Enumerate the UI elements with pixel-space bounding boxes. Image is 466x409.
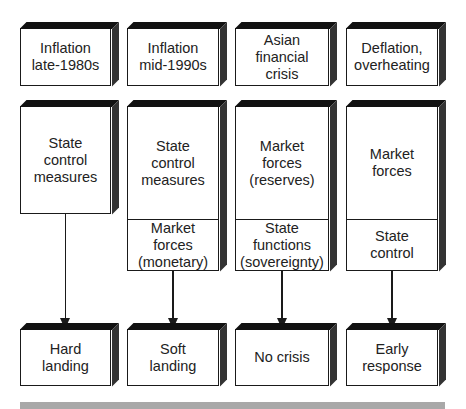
outcome-box-2: Soft landing xyxy=(127,329,219,386)
response-box-3: Market forces (reserves) State functions… xyxy=(235,106,329,271)
outcome-box-4: Early response xyxy=(346,329,438,386)
outcome-label: Hard landing xyxy=(21,330,110,385)
arrow-down-1 xyxy=(65,214,67,329)
response-lower-label: Market forces (monetary) xyxy=(128,219,218,271)
trigger-label: Deflation, overheating xyxy=(347,29,437,85)
trigger-box-1: Inflation late-1980s xyxy=(20,28,111,86)
trigger-label: Inflation mid-1990s xyxy=(128,29,218,85)
arrow-down-4 xyxy=(391,271,393,329)
trigger-label: Asian financial crisis xyxy=(236,29,328,85)
trigger-box-2: Inflation mid-1990s xyxy=(127,28,219,86)
response-upper-label: Market forces (reserves) xyxy=(236,107,328,219)
outcome-box-3: No crisis xyxy=(235,329,329,386)
outcome-label: Early response xyxy=(347,330,437,385)
arrow-down-2 xyxy=(172,271,174,329)
response-box-2: State control measures Market forces (mo… xyxy=(127,106,219,271)
trigger-box-3: Asian financial crisis xyxy=(235,28,329,86)
response-lower-label: State functions (sovereignty) xyxy=(236,219,328,271)
response-lower-label: State control xyxy=(347,219,437,270)
outcome-label: Soft landing xyxy=(128,330,218,385)
footer-bar xyxy=(20,402,445,409)
outcome-box-1: Hard landing xyxy=(20,329,111,386)
outcome-label: No crisis xyxy=(236,330,328,385)
trigger-box-4: Deflation, overheating xyxy=(346,28,438,86)
response-box-4: Market forces State control xyxy=(346,106,438,271)
trigger-label: Inflation late-1980s xyxy=(21,29,110,85)
response-upper-label: State control measures xyxy=(21,107,110,213)
arrow-down-3 xyxy=(281,271,283,329)
response-upper-label: Market forces xyxy=(347,107,437,219)
response-box-1: State control measures xyxy=(20,106,111,214)
response-upper-label: State control measures xyxy=(128,107,218,219)
